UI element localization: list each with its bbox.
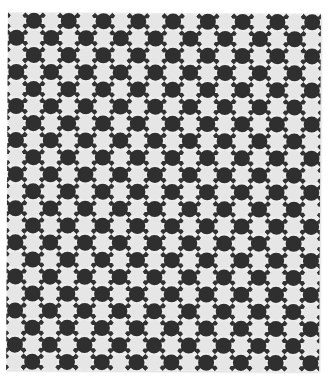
light-circle — [8, 149, 24, 165]
dark-circle — [42, 234, 58, 250]
dark-circle — [303, 287, 319, 303]
dark-circle — [146, 337, 162, 353]
light-circle — [182, 150, 198, 166]
dark-circle — [8, 30, 24, 46]
light-circle — [233, 304, 249, 320]
dark-circle — [182, 167, 198, 183]
light-circle — [286, 116, 302, 132]
light-circle — [95, 64, 111, 80]
light-circle — [112, 184, 128, 200]
light-circle — [94, 201, 110, 217]
dark-circle — [163, 320, 179, 336]
light-circle — [216, 321, 232, 337]
dark-circle — [198, 355, 214, 371]
dark-circle — [252, 99, 268, 115]
dark-circle — [94, 252, 110, 268]
dark-circle — [78, 98, 94, 114]
light-circle — [268, 270, 284, 286]
dark-circle — [304, 117, 320, 133]
light-circle — [164, 235, 180, 251]
light-circle — [147, 116, 163, 132]
dark-circle — [112, 133, 128, 149]
dark-circle — [286, 168, 302, 184]
light-circle — [60, 235, 76, 251]
light-circle — [198, 304, 214, 320]
dark-circle — [302, 355, 318, 371]
dark-circle — [60, 149, 76, 165]
light-circle — [76, 320, 92, 336]
dark-circle — [130, 150, 146, 166]
dark-circle — [77, 235, 93, 251]
light-circle — [113, 81, 129, 97]
dark-circle — [269, 150, 285, 166]
dark-circle — [304, 48, 320, 64]
light-circle — [163, 337, 179, 353]
light-circle — [77, 184, 93, 200]
light-circle — [7, 320, 23, 336]
light-circle — [8, 183, 24, 199]
light-circle — [60, 64, 76, 80]
light-circle — [146, 320, 162, 336]
light-circle — [216, 150, 232, 166]
dark-circle — [268, 321, 284, 337]
light-circle — [165, 65, 181, 81]
light-circle — [304, 99, 320, 115]
dark-circle — [147, 99, 163, 115]
dark-circle — [43, 132, 59, 148]
light-circle — [269, 31, 285, 47]
dark-circle — [59, 286, 75, 302]
dark-circle — [181, 201, 197, 217]
dark-circle — [146, 303, 162, 319]
dark-circle — [78, 30, 94, 46]
light-circle — [8, 81, 24, 97]
dark-circle — [95, 47, 111, 63]
dark-circle — [233, 355, 249, 371]
dark-circle — [304, 14, 320, 30]
light-circle — [199, 235, 215, 251]
light-circle — [147, 150, 163, 166]
dark-circle — [95, 115, 111, 131]
light-circle — [217, 116, 233, 132]
dark-circle — [235, 14, 251, 30]
light-circle — [304, 65, 320, 81]
dark-circle — [111, 303, 127, 319]
dark-circle — [8, 98, 24, 114]
dark-circle — [59, 252, 75, 268]
light-circle — [95, 30, 111, 46]
light-circle — [286, 82, 302, 98]
dark-circle — [113, 30, 129, 46]
dark-circle — [200, 48, 216, 64]
light-circle — [181, 320, 197, 336]
dark-circle — [199, 82, 215, 98]
dark-circle — [8, 132, 24, 148]
dark-circle — [25, 149, 41, 165]
dark-circle — [217, 133, 233, 149]
dark-circle — [216, 338, 232, 354]
quilt-photo — [6, 12, 321, 372]
light-circle — [95, 167, 111, 183]
light-circle — [199, 201, 215, 217]
dark-circle — [95, 184, 111, 200]
dark-circle — [25, 251, 41, 267]
light-circle — [76, 354, 92, 370]
dark-circle — [268, 219, 284, 235]
light-circle — [302, 338, 318, 354]
dark-circle — [163, 354, 179, 370]
light-circle — [198, 269, 214, 285]
dark-circle — [217, 31, 233, 47]
dark-circle — [111, 337, 127, 353]
dark-circle — [147, 201, 163, 217]
light-circle — [216, 287, 232, 303]
dark-circle — [77, 201, 93, 217]
dark-circle — [164, 218, 180, 234]
light-circle — [146, 286, 162, 302]
dark-circle — [8, 200, 24, 216]
dark-circle — [147, 133, 163, 149]
light-circle — [216, 184, 232, 200]
light-circle — [269, 65, 285, 81]
dark-circle — [199, 116, 215, 132]
light-circle — [95, 132, 111, 148]
light-circle — [217, 82, 233, 98]
light-circle — [164, 133, 180, 149]
dark-circle — [198, 286, 214, 302]
